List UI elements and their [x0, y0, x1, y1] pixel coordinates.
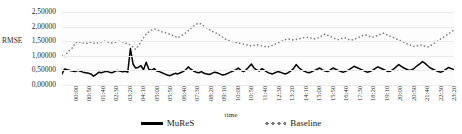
y-axis-tick-label: 1,00000 — [32, 52, 56, 60]
series-baseline-line — [62, 23, 454, 57]
x-axis-tick-label: 06:40 — [180, 86, 187, 101]
x-axis-tick-label: 13:20 — [288, 86, 295, 101]
series-mures-line — [62, 49, 454, 77]
y-axis-tick-label: 2,00000 — [32, 23, 56, 31]
x-axis-tick-label: 08:20 — [207, 86, 214, 101]
plot-area — [62, 12, 454, 85]
x-axis-tick-label: 23:20 — [450, 86, 457, 101]
x-axis-tick-label: 01:40 — [99, 86, 106, 101]
x-axis-tick-label: 19:10 — [383, 86, 390, 101]
x-axis-tick-label: 00:00 — [72, 86, 79, 101]
x-axis-tick-label: 04:10 — [139, 86, 146, 101]
x-axis-tick-label: 15:50 — [329, 86, 336, 101]
x-axis-tick-label: 18:20 — [369, 86, 376, 101]
x-axis-tick-label: 07:30 — [193, 86, 200, 101]
y-axis-tick-label: 1,50000 — [32, 37, 56, 45]
x-axis-tick-label: 02:30 — [112, 86, 119, 101]
y-axis-title: RMSE — [2, 37, 22, 45]
x-axis-tick-label: 22:30 — [437, 86, 444, 101]
dotted-line-swatch-icon — [264, 122, 286, 125]
y-axis-tick-label: 0,00000 — [32, 81, 56, 89]
x-axis: 00:0000:5001:4002:3003:2004:1005:0005:50… — [62, 86, 454, 110]
rmse-time-series-chart: 0,000000,500001,000001,500002,000002,500… — [0, 0, 462, 134]
x-axis-tick-label: 17:30 — [356, 86, 363, 101]
x-axis-tick-label: 00:50 — [85, 86, 92, 101]
gridline — [62, 70, 454, 71]
gridline — [62, 41, 454, 42]
x-axis-tick-label: 15:00 — [315, 86, 322, 101]
legend-item-mures: MuReS — [141, 118, 195, 128]
x-axis-tick-label: 20:00 — [396, 86, 403, 101]
x-axis-tick-label: 05:00 — [153, 86, 160, 101]
chart-legend: MuReS Baseline — [0, 118, 462, 128]
legend-label-mures: MuReS — [167, 118, 195, 128]
legend-label-baseline: Baseline — [290, 118, 321, 128]
x-axis-tick-label: 03:20 — [126, 86, 133, 101]
gridline — [62, 27, 454, 28]
gridline — [62, 12, 454, 13]
x-axis-tick-label: 10:50 — [247, 86, 254, 101]
x-axis-tick-label: 20:50 — [410, 86, 417, 101]
x-axis-tick-label: 12:30 — [275, 86, 282, 101]
x-axis-title: time — [0, 111, 462, 118]
y-axis-tick-label: 2,50000 — [32, 8, 56, 16]
x-axis-tick-label: 09:10 — [220, 86, 227, 101]
plot-canvas — [62, 12, 454, 85]
x-axis-tick-label: 05:50 — [166, 86, 173, 101]
x-axis-tick-label: 14:10 — [302, 86, 309, 101]
y-axis-tick-label: 0,50000 — [32, 66, 56, 74]
legend-item-baseline: Baseline — [264, 118, 321, 128]
x-axis-tick-label: 10:00 — [234, 86, 241, 101]
gridline — [62, 56, 454, 57]
solid-line-swatch-icon — [141, 122, 163, 125]
x-axis-tick-label: 21:40 — [423, 86, 430, 101]
x-axis-tick-label: 11:40 — [261, 86, 268, 101]
y-axis: 0,000000,500001,000001,500002,000002,500… — [0, 0, 60, 95]
x-axis-tick-label: 16:40 — [342, 86, 349, 101]
